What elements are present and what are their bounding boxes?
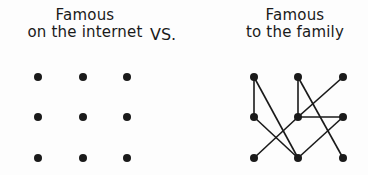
node-dot <box>294 154 302 162</box>
node-dots <box>34 73 347 162</box>
node-dot <box>123 154 131 162</box>
network-diagram <box>0 0 368 175</box>
node-dot <box>79 73 87 81</box>
edge-line <box>298 117 343 158</box>
edge-line <box>298 77 343 117</box>
node-dot <box>339 73 347 81</box>
node-dot <box>34 154 42 162</box>
node-dot <box>34 73 42 81</box>
comic-panel: Famous on the internet VS. Famous to the… <box>0 0 368 175</box>
node-dot <box>79 154 87 162</box>
node-dot <box>79 113 87 121</box>
node-dot <box>294 113 302 121</box>
node-dot <box>339 154 347 162</box>
node-dot <box>123 113 131 121</box>
node-dot <box>250 154 258 162</box>
node-dot <box>123 73 131 81</box>
node-dot <box>250 113 258 121</box>
node-dot <box>339 113 347 121</box>
edge-line <box>254 77 298 158</box>
node-dot <box>34 113 42 121</box>
node-dot <box>294 73 302 81</box>
node-dot <box>250 73 258 81</box>
